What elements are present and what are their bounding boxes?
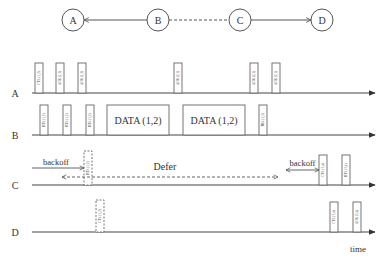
data-frame: DATA (1,2) xyxy=(183,105,245,135)
control-frame: ACK (3,4) xyxy=(353,202,361,232)
backoff-label: backoff xyxy=(43,157,69,167)
frame-label: DATA (1,2) xyxy=(115,115,162,127)
annotations: backoffDeferbackoff xyxy=(32,157,319,177)
control-frame: RTS (1,2) xyxy=(63,105,71,135)
node-label: B xyxy=(155,15,162,26)
overheard-frame: RTS (1,2) xyxy=(84,151,92,185)
node-d: D xyxy=(311,9,333,31)
row-label: C xyxy=(12,180,19,191)
node-label: D xyxy=(318,15,325,26)
control-frame: RTS (1,2) xyxy=(86,105,94,135)
row-label: B xyxy=(12,130,19,141)
data-frame: DATA (1,2) xyxy=(107,105,169,135)
timeline-row-c: CRTS (1,2)CTS (3,4)RTS (3,4)backoffDefer… xyxy=(12,151,375,191)
control-frame: TRS (1,2) xyxy=(259,105,267,135)
node-a: A xyxy=(62,9,84,31)
control-frame: ACK (1,2) xyxy=(56,63,64,93)
time-axis-label: time xyxy=(350,244,366,254)
node-label: A xyxy=(69,15,77,26)
control-frame: ACK (2,1) xyxy=(272,63,280,93)
row-label: A xyxy=(11,88,19,99)
timeline: ACTS (1,2)ACK (1,2)ACK (1,2)ACK (2,1)ACK… xyxy=(11,63,375,254)
timeline-row-d: DCTS (1,2)CTS (3,4)ACK (3,4) xyxy=(11,200,375,238)
node-label: C xyxy=(237,15,244,26)
rts-cts-timing-diagram: ABCD ACTS (1,2)ACK (1,2)ACK (1,2)ACK (2,… xyxy=(0,0,392,261)
backoff-label: backoff xyxy=(290,158,316,168)
control-frame: CTS (1,2) xyxy=(35,63,43,93)
control-frame: CTS (3,4) xyxy=(330,202,338,232)
timeline-row-a: ACTS (1,2)ACK (1,2)ACK (1,2)ACK (2,1)ACK… xyxy=(11,63,375,99)
defer-label: Defer xyxy=(154,161,177,172)
diagram-svg: ABCD ACTS (1,2)ACK (1,2)ACK (1,2)ACK (2,… xyxy=(0,0,392,261)
timeline-row-b: BRTS (1,2)RTS (1,2)RTS (1,2)DATA (1,2)DA… xyxy=(12,105,375,141)
row-label: D xyxy=(11,227,18,238)
node-b: B xyxy=(147,9,169,31)
node-c: C xyxy=(229,9,251,31)
control-frame: ACK (2,1) xyxy=(250,63,258,93)
overheard-frame: CTS (1,2) xyxy=(96,200,104,232)
topology: ABCD xyxy=(62,9,333,31)
frame-label: DATA (1,2) xyxy=(191,115,238,127)
control-frame: RTS (3,4) xyxy=(342,155,350,185)
control-frame: ACK (1,2) xyxy=(78,63,86,93)
control-frame: RTS (1,2) xyxy=(40,105,48,135)
control-frame: CTS (3,4) xyxy=(319,155,327,185)
control-frame: ACK (2,1) xyxy=(174,63,182,93)
